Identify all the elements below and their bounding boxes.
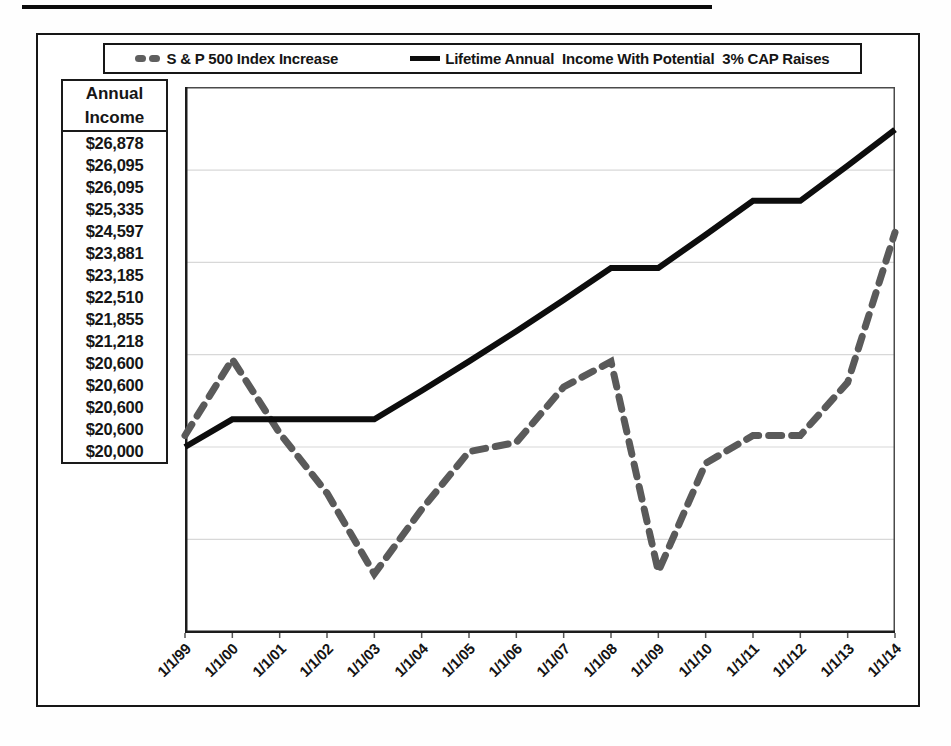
gray-dash-marker-icon <box>135 55 160 62</box>
income-value: $20,600 <box>63 374 166 396</box>
chart-svg <box>185 87 895 633</box>
legend-label-lifetime-income: Lifetime Annual Income With Potential 3%… <box>445 50 829 67</box>
annual-income-table: Annual Income $26,878$26,095$26,095$25,3… <box>61 79 168 464</box>
chart-legend: S & P 500 Index Increase Lifetime Annual… <box>103 43 862 74</box>
page-crop-rule <box>22 5 712 9</box>
income-value: $20,000 <box>63 440 166 462</box>
income-value: $24,597 <box>63 220 166 242</box>
income-value: $22,510 <box>63 286 166 308</box>
annual-income-header-line1: Annual <box>63 82 166 106</box>
income-value: $21,855 <box>63 308 166 330</box>
income-value: $21,218 <box>63 330 166 352</box>
income-value: $26,095 <box>63 176 166 198</box>
legend-entry-lifetime-income: Lifetime Annual Income With Potential 3%… <box>410 50 829 67</box>
income-value: $26,878 <box>63 132 166 154</box>
income-value: $23,185 <box>63 264 166 286</box>
lifetime-income-solid-line <box>185 130 895 447</box>
plot-border <box>186 88 895 633</box>
annual-income-header-line2: Income <box>63 106 166 130</box>
legend-label-sp500: S & P 500 Index Increase <box>166 50 338 67</box>
annual-income-table-header: Annual Income <box>63 81 166 132</box>
income-value: $25,335 <box>63 198 166 220</box>
income-value: $20,600 <box>63 352 166 374</box>
income-value: $26,095 <box>63 154 166 176</box>
black-line-marker-icon <box>410 56 440 61</box>
legend-entry-sp500: S & P 500 Index Increase <box>135 50 338 67</box>
income-value: $20,600 <box>63 396 166 418</box>
income-value: $23,881 <box>63 242 166 264</box>
income-value: $20,600 <box>63 418 166 440</box>
sp500-dashed-line <box>185 232 895 574</box>
plot-area <box>185 87 895 633</box>
scanned-chart-page: { "legend": { "items": [ { "label": "S &… <box>0 0 951 746</box>
annual-income-values: $26,878$26,095$26,095$25,335$24,597$23,8… <box>63 132 166 462</box>
